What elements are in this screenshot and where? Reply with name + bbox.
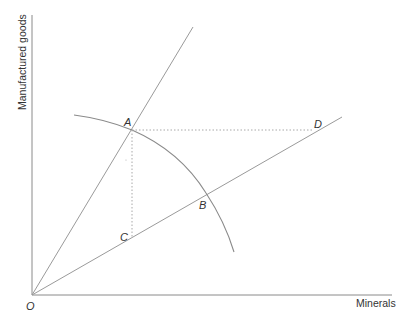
stray-dot-mark [125,159,126,160]
point-label-b: B [199,199,206,211]
point-label-d: D [314,118,322,130]
production-frontier-curve [74,115,234,252]
shallow-ray [32,117,342,295]
diagram-canvas: A D B C O Manufactured goods Minerals [0,0,406,321]
point-label-c: C [120,231,128,243]
x-axis-label: Minerals [356,297,396,309]
y-axis-label: Manufactured goods [16,14,28,110]
origin-label: O [26,300,35,312]
steep-ray [32,27,193,295]
point-label-a: A [123,116,131,128]
